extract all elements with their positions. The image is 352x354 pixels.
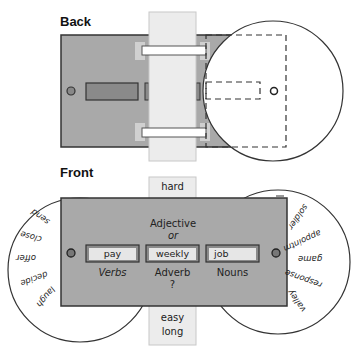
slot-label-nouns: Nouns <box>206 267 259 278</box>
back-wheel-pivot-icon <box>271 88 278 95</box>
front-title: Front <box>60 165 93 180</box>
back-band-top <box>142 46 206 55</box>
header-adjective: Adjective <box>130 218 216 229</box>
strip-bottom-word-2: long <box>149 326 196 337</box>
back-hole-icon <box>67 87 75 95</box>
right-wheel-word-game: game <box>298 254 322 264</box>
front-right-pivot-icon <box>272 249 280 257</box>
strip-top-word: hard <box>149 181 196 192</box>
front-left-pivot-icon <box>67 249 75 257</box>
back-wheel <box>203 21 343 161</box>
slot-label-adverb: Adverb <box>146 267 199 278</box>
slot-word-adverb: weekly <box>149 248 196 259</box>
slot-word-verbs: pay <box>89 248 136 259</box>
back-slider-strip <box>149 12 196 161</box>
slot-word-nouns: job <box>214 248 256 259</box>
header-or: or <box>130 230 216 241</box>
left-wheel-word-offer: offer <box>16 253 36 263</box>
slot-label-verbs: Verbs <box>86 267 139 278</box>
back-band-bottom <box>142 128 206 137</box>
strip-bottom-word-1: easy <box>149 312 196 323</box>
adverb-question-mark: ? <box>146 279 199 290</box>
